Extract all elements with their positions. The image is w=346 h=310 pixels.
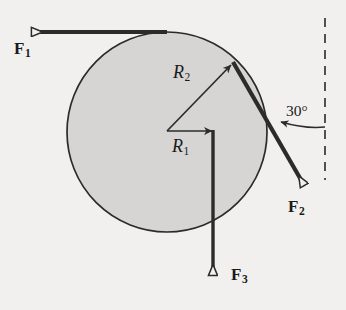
force-diagram-figure: F1 F2 F3 R1 R2 30° xyxy=(0,0,346,310)
angle-label: 30° xyxy=(286,103,308,119)
force-f3-symbol: F xyxy=(231,265,241,284)
shaded-circular-disk xyxy=(67,32,267,232)
force-f1-symbol: F xyxy=(14,39,24,58)
radius-r2-label: R2 xyxy=(173,63,190,84)
force-f2-subscript: 2 xyxy=(299,205,305,217)
radius-r2-symbol: R xyxy=(173,62,184,82)
force-f2-label: F2 xyxy=(288,198,305,218)
radius-r1-label: R1 xyxy=(172,137,189,158)
force-f3-subscript: 3 xyxy=(242,273,248,285)
force-f2-symbol: F xyxy=(288,197,298,216)
force-f1-subscript: 1 xyxy=(25,47,31,59)
angle-arc xyxy=(281,122,325,127)
force-f1-label: F1 xyxy=(14,40,31,60)
radius-r2-subscript: 2 xyxy=(185,71,191,83)
radius-r1-subscript: 1 xyxy=(184,145,190,157)
radius-r1-symbol: R xyxy=(172,136,183,156)
force-f3-label: F3 xyxy=(231,266,248,286)
